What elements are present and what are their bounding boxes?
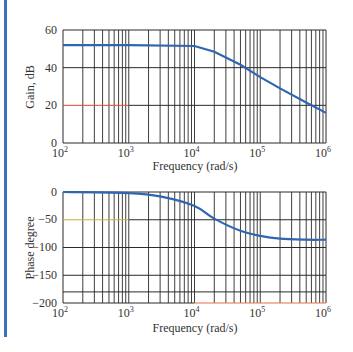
x-tick-label: 102 — [52, 145, 68, 160]
phase-ytick: 0 — [51, 185, 57, 199]
bode-plot: 60 40 20 0 102103104105106 Frequency (ra… — [0, 0, 353, 352]
gain-y-tick-labels: 60 40 20 0 — [45, 23, 57, 150]
gain-ytick: 60 — [45, 23, 57, 37]
x-tick-label: 102 — [52, 305, 68, 320]
x-tick-label: 103 — [118, 145, 134, 160]
phase-y-axis-label: Phase degree — [23, 217, 37, 280]
phase-x-axis-label: Frequency (rad/s) — [153, 321, 238, 335]
phase-grid — [63, 192, 326, 303]
x-tick-label: 106 — [315, 145, 331, 160]
phase-x-tick-labels: 102103104105106 — [52, 305, 331, 320]
x-tick-label: 105 — [249, 305, 265, 320]
gain-x-tick-labels: 102103104105106 — [52, 145, 331, 160]
x-tick-label: 105 — [249, 145, 265, 160]
gain-y-axis-label: Gain, dB — [23, 65, 37, 108]
phase-ytick: −50 — [38, 212, 57, 226]
gain-x-axis-label: Frequency (rad/s) — [153, 159, 238, 173]
x-tick-label: 104 — [184, 145, 200, 160]
gain-ytick: 40 — [45, 61, 57, 75]
x-tick-label: 106 — [315, 305, 331, 320]
x-tick-label: 103 — [118, 305, 134, 320]
x-tick-label: 104 — [184, 305, 200, 320]
gain-ytick: 20 — [45, 98, 57, 112]
